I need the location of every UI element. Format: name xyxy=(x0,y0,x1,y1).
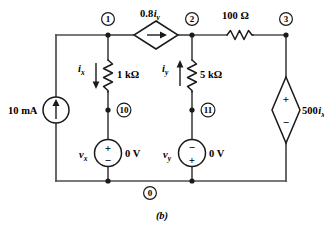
voltage-source-vy-value: 0 V xyxy=(209,148,225,159)
current-iy-label: iy xyxy=(162,63,169,77)
voltage-source-vx-variable: vx xyxy=(79,149,88,163)
resistor-100-zigzag xyxy=(227,31,253,40)
circuit-figure: 10 mA 0.8iy 1 kΩ ix 5 kΩ iy xyxy=(0,0,324,228)
voltage-source-vx-value: 0 V xyxy=(125,148,141,159)
current-ix-label: ix xyxy=(78,63,85,77)
junction-bottom-branch2 xyxy=(189,178,194,183)
current-ix-arrowhead xyxy=(93,82,100,90)
resistor-5k-label: 5 kΩ xyxy=(200,69,222,80)
node-0-text: 0 xyxy=(148,188,153,198)
dependent-voltage-source-label: 500ix xyxy=(302,105,324,119)
voltage-source-vx-minus: − xyxy=(105,154,111,166)
resistor-5k[interactable] xyxy=(188,60,197,92)
resistor-1k[interactable] xyxy=(104,60,113,92)
resistor-1k-label: 1 kΩ xyxy=(117,69,139,80)
junction-node2 xyxy=(189,32,194,37)
voltage-source-vx-plus: + xyxy=(105,142,111,154)
dependent-voltage-source-minus: − xyxy=(283,116,289,128)
node-label-11: 11 xyxy=(201,103,215,117)
node-11-text: 11 xyxy=(204,105,213,115)
resistor-100[interactable] xyxy=(227,31,253,40)
dependent-current-source[interactable] xyxy=(134,21,178,49)
figure-caption: (b) xyxy=(156,210,168,222)
dependent-voltage-source-plus: + xyxy=(283,93,289,105)
voltage-source-vy-variable: vy xyxy=(163,149,172,163)
independent-current-source[interactable] xyxy=(43,97,69,123)
dependent-voltage-source-body xyxy=(272,77,300,143)
current-source-label: 10 mA xyxy=(8,105,38,116)
junction-bottom-branch1 xyxy=(105,178,110,183)
current-iy-arrow xyxy=(177,60,184,86)
resistor-1k-zigzag xyxy=(104,60,113,92)
voltage-source-vx[interactable]: + − xyxy=(95,140,122,167)
node-3-text: 3 xyxy=(284,14,289,24)
node-label-3: 3 xyxy=(280,13,293,26)
resistor-100-label: 100 Ω xyxy=(222,10,249,21)
node-label-1: 1 xyxy=(102,13,115,26)
current-iy-arrowhead xyxy=(177,60,184,68)
circuit-diagram: 10 mA 0.8iy 1 kΩ ix 5 kΩ iy xyxy=(0,0,324,228)
current-ix-arrow xyxy=(93,63,100,89)
node-label-2: 2 xyxy=(186,13,199,26)
node-label-10: 10 xyxy=(117,103,131,117)
junction-node1 xyxy=(105,32,110,37)
voltage-source-vy[interactable]: − + xyxy=(179,140,206,167)
voltage-source-vy-plus: + xyxy=(189,154,195,166)
resistor-5k-zigzag xyxy=(188,60,197,92)
dependent-current-source-label: 0.8iy xyxy=(140,8,161,22)
node-10-text: 10 xyxy=(120,105,130,115)
junction-node11 xyxy=(189,107,194,112)
node-1-text: 1 xyxy=(106,14,111,24)
dependent-voltage-source[interactable]: + − xyxy=(272,77,300,143)
voltage-source-vy-minus: − xyxy=(189,141,195,153)
node-2-text: 2 xyxy=(190,14,195,24)
junction-node10 xyxy=(105,107,110,112)
node-labels: 1 2 3 10 11 0 xyxy=(102,13,293,200)
junction-node3 xyxy=(283,32,288,37)
node-label-0: 0 xyxy=(144,187,157,200)
